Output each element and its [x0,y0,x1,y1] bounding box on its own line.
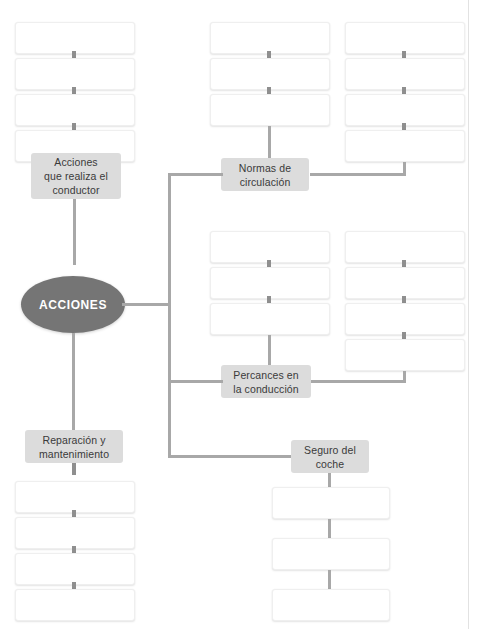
blank-box[interactable] [345,22,465,54]
node-normas-circulacion-label: Normas de circulación [239,161,291,189]
connector-seguro-down [328,519,331,538]
connector-percances-to-spine [168,380,223,383]
blank-box[interactable] [345,339,465,371]
connector-hub-to-reparacion [72,333,75,434]
blank-box[interactable] [15,94,135,126]
connector-percances-column-down [268,335,271,365]
node-reparacion-mantenimiento[interactable]: Reparación y mantenimiento [25,430,123,463]
blank-box[interactable] [15,553,135,585]
node-normas-circulacion[interactable]: Normas de circulación [221,158,309,191]
connector-normas-to-spine [168,173,223,176]
connector-normas-right-horizontal [310,173,406,176]
connector-seguro-down [328,473,331,487]
blank-box[interactable] [210,303,330,335]
hub-node-acciones[interactable]: ACCIONES [21,276,125,333]
blank-box[interactable] [345,94,465,126]
blank-box[interactable] [15,58,135,90]
blank-box[interactable] [210,58,330,90]
blank-box[interactable] [345,231,465,263]
page-margin-rule [468,0,469,629]
connector-seguro-down [328,570,331,589]
blank-box[interactable] [345,58,465,90]
node-reparacion-mantenimiento-label: Reparación y mantenimiento [39,433,109,461]
connector-hub-to-spine [122,303,171,306]
blank-box[interactable] [345,267,465,299]
blank-box[interactable] [15,517,135,549]
node-seguro-coche-label: Seguro del coche [304,443,356,471]
connector-normas-column-down [268,126,271,158]
node-acciones-conductor-label: Acciones que realiza el conductor [44,155,108,197]
blank-box[interactable] [15,589,135,621]
blank-box[interactable] [210,94,330,126]
concept-map-page: Acciones que realiza el conductor Normas… [0,0,484,629]
node-percances-conduccion[interactable]: Percances en la conducción [221,365,311,398]
hub-node-label: ACCIONES [39,298,107,312]
blank-box[interactable] [345,303,465,335]
connector-conductor-to-hub [73,199,76,265]
node-seguro-coche[interactable]: Seguro del coche [291,440,369,473]
box-connector-tick [72,463,76,475]
blank-box[interactable] [272,538,390,570]
blank-box[interactable] [272,487,390,519]
blank-box[interactable] [210,22,330,54]
connector-spine-to-seguro [168,455,293,458]
connector-percances-right-horizontal [310,380,406,383]
blank-box[interactable] [345,130,465,162]
connector-spine-vertical [168,173,171,458]
blank-box[interactable] [15,22,135,54]
node-percances-conduccion-label: Percances en la conducción [233,368,299,396]
blank-box[interactable] [210,267,330,299]
blank-box[interactable] [15,481,135,513]
node-acciones-conductor[interactable]: Acciones que realiza el conductor [31,153,121,199]
blank-box[interactable] [210,231,330,263]
blank-box[interactable] [272,589,390,621]
